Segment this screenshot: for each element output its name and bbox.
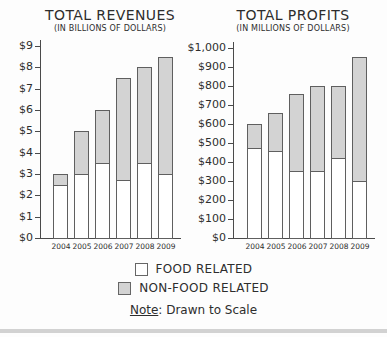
y-tick bbox=[35, 174, 41, 175]
y-tick bbox=[35, 131, 41, 132]
legend-item-food: FOOD RELATED bbox=[0, 262, 387, 276]
scale-note-label: Note bbox=[130, 303, 158, 317]
bar-2004-food bbox=[247, 124, 262, 239]
scan-artifact-band bbox=[0, 329, 387, 333]
bar-2007-food bbox=[116, 78, 131, 239]
bar-2004-food bbox=[53, 174, 68, 239]
figure-total-revenues-profits: TOTAL REVENUES (IN BILLIONS OF DOLLARS) … bbox=[0, 0, 387, 337]
revenues-chart: TOTAL REVENUES (IN BILLIONS OF DOLLARS) … bbox=[0, 0, 193, 260]
y-tick bbox=[228, 143, 234, 144]
bar-2007-food bbox=[310, 86, 325, 239]
bar-2007-nonfood bbox=[311, 87, 324, 172]
y-tick-label: $3 bbox=[0, 168, 33, 180]
bar-2009-nonfood bbox=[353, 58, 366, 182]
y-tick-label: $500 bbox=[183, 137, 226, 149]
non-food-related-swatch bbox=[118, 282, 131, 295]
bar-2006-nonfood bbox=[96, 111, 109, 164]
bar-2009-nonfood bbox=[159, 58, 172, 175]
y-tick bbox=[228, 219, 234, 220]
bar-2006-food bbox=[289, 94, 304, 239]
y-tick-label: $6 bbox=[0, 104, 33, 116]
y-tick bbox=[35, 217, 41, 218]
x-tick-label-2009: 2009 bbox=[155, 242, 177, 252]
y-tick bbox=[228, 181, 234, 182]
profits-plot: $0$100$200$300$400$500$600$700$800$900$1… bbox=[193, 0, 387, 260]
x-tick-label-2005: 2005 bbox=[265, 242, 287, 252]
x-tick-label-2008: 2008 bbox=[328, 242, 350, 252]
y-tick-label: $0 bbox=[0, 232, 33, 244]
bar-2009-food bbox=[352, 57, 367, 239]
y-tick bbox=[228, 162, 234, 163]
y-tick bbox=[228, 105, 234, 106]
y-tick bbox=[35, 89, 41, 90]
y-tick-label: $600 bbox=[183, 118, 226, 130]
y-tick bbox=[35, 153, 41, 154]
y-tick-label: $8 bbox=[0, 61, 33, 73]
y-tick bbox=[228, 67, 234, 68]
y-tick-label: $9 bbox=[0, 40, 33, 52]
bar-2004-nonfood bbox=[248, 125, 261, 149]
bar-2005-nonfood bbox=[75, 132, 88, 175]
revenues-plot: $0$1$2$3$4$5$6$7$8$920042005200620072008… bbox=[0, 0, 193, 260]
y-tick-label: $400 bbox=[183, 156, 226, 168]
bar-2005-nonfood bbox=[269, 114, 282, 152]
profits-chart: TOTAL PROFITS (IN MILLIONS OF DOLLARS) $… bbox=[193, 0, 387, 260]
legend-label-food: FOOD RELATED bbox=[156, 262, 253, 276]
y-tick bbox=[228, 48, 234, 49]
bar-2009-food bbox=[158, 57, 173, 239]
legend-label-nonfood: NON-FOOD RELATED bbox=[139, 281, 269, 295]
x-tick-label-2008: 2008 bbox=[134, 242, 156, 252]
y-tick-label: $800 bbox=[183, 80, 226, 92]
y-axis-line bbox=[233, 42, 234, 239]
legend: FOOD RELATED NON-FOOD RELATED bbox=[0, 262, 387, 300]
y-tick-label: $5 bbox=[0, 125, 33, 137]
bar-2008-nonfood bbox=[332, 87, 345, 159]
x-tick-label-2004: 2004 bbox=[244, 242, 266, 252]
x-tick-label-2009: 2009 bbox=[349, 242, 371, 252]
y-tick bbox=[35, 195, 41, 196]
bar-2008-food bbox=[331, 86, 346, 239]
scale-note-text: : Drawn to Scale bbox=[158, 303, 257, 317]
x-tick-label-2004: 2004 bbox=[50, 242, 72, 252]
bar-2004-nonfood bbox=[54, 175, 67, 186]
y-tick bbox=[228, 200, 234, 201]
bar-2007-nonfood bbox=[117, 79, 130, 181]
y-tick bbox=[228, 124, 234, 125]
x-tick-label-2005: 2005 bbox=[71, 242, 93, 252]
bar-2008-nonfood bbox=[138, 68, 151, 164]
y-tick-label: $900 bbox=[183, 61, 226, 73]
x-tick-label-2007: 2007 bbox=[307, 242, 329, 252]
y-tick-label: $7 bbox=[0, 83, 33, 95]
bar-2005-food bbox=[268, 113, 283, 239]
y-tick-label: $1,000 bbox=[183, 42, 226, 54]
bar-2008-food bbox=[137, 67, 152, 239]
bar-2005-food bbox=[74, 131, 89, 239]
y-tick-label: $100 bbox=[183, 213, 226, 225]
x-tick-label-2006: 2006 bbox=[92, 242, 114, 252]
x-tick-label-2006: 2006 bbox=[286, 242, 308, 252]
y-tick bbox=[35, 110, 41, 111]
legend-item-nonfood: NON-FOOD RELATED bbox=[0, 281, 387, 295]
y-tick-label: $2 bbox=[0, 189, 33, 201]
y-tick-label: $200 bbox=[183, 194, 226, 206]
y-tick-label: $4 bbox=[0, 147, 33, 159]
y-tick bbox=[35, 67, 41, 68]
scale-note: Note: Drawn to Scale bbox=[0, 303, 387, 317]
y-tick bbox=[35, 46, 41, 47]
food-related-swatch bbox=[135, 263, 148, 276]
bar-2006-food bbox=[95, 110, 110, 239]
y-tick-label: $700 bbox=[183, 99, 226, 111]
y-tick-label: $0 bbox=[183, 232, 226, 244]
x-tick-label-2007: 2007 bbox=[113, 242, 135, 252]
bar-2006-nonfood bbox=[290, 95, 303, 172]
y-tick-label: $1 bbox=[0, 211, 33, 223]
y-tick-label: $300 bbox=[183, 175, 226, 187]
y-tick bbox=[228, 86, 234, 87]
y-axis-line bbox=[40, 40, 41, 239]
